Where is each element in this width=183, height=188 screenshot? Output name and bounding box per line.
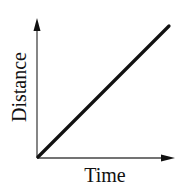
distance-line: [38, 26, 169, 157]
x-axis-arrow-icon: [161, 155, 175, 162]
x-axis: [37, 155, 175, 162]
y-axis-arrow-icon: [34, 18, 41, 31]
distance-time-graph: Time Distance: [0, 0, 183, 188]
y-axis: [34, 18, 41, 158]
x-axis-label: Time: [84, 164, 126, 186]
y-axis-label: Distance: [8, 52, 30, 122]
